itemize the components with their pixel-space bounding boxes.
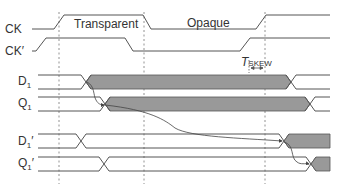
skew-label: TSKEW [241,56,272,68]
subscript: 1 [27,81,31,90]
prime-mark: ′ [32,156,34,170]
signal-label-text: CK [5,22,22,36]
signal-label-d1: D1 [18,75,31,90]
signal-label-q1: Q1 [18,97,32,112]
timing-diagram [0,0,340,195]
ck-prime-waveform [32,38,330,51]
causality-arrows [87,82,309,164]
signal-label-text: Q [18,96,27,110]
d1-waveform [38,75,330,89]
q1-prime-waveform [38,157,330,171]
signal-label-text: D [18,74,27,88]
signal-label-text: CK [5,44,22,58]
signal-label-ck-prime: CK′ [5,45,24,57]
phase-label-opaque: Opaque [187,17,230,29]
signal-label-ck: CK [5,23,22,35]
prime-mark: ′ [31,134,33,148]
q1-waveform [38,97,330,111]
prime-mark: ′ [22,44,24,58]
signal-label-q1-prime: Q1′ [18,157,34,172]
d1-prime-waveform [38,134,330,148]
signal-label-text: D [18,134,27,148]
signal-label-text: Q [18,156,27,170]
skew-subscript: SKEW [248,59,272,68]
subscript: 1 [27,103,31,112]
phase-label-transparent: Transparent [74,18,138,30]
signal-label-d1-prime: D1′ [18,135,33,150]
